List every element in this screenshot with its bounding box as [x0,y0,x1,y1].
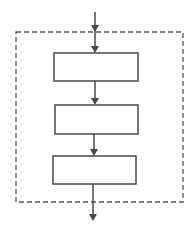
arrow-box2-to-box3 [90,134,98,156]
process-box-1 [54,53,138,81]
flowchart-diagram [0,0,196,231]
process-box-3 [53,156,136,184]
process-box-2 [55,105,138,134]
arrow-box1-to-box2 [91,81,99,105]
